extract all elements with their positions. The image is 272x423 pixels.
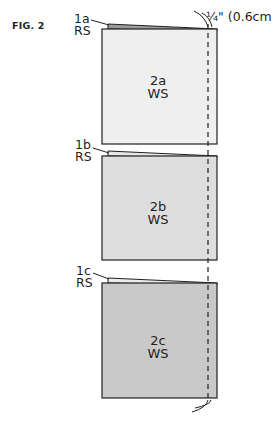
seam-allowance-label: ¼" (0.6cm) [206,9,272,24]
flap-side: RS [75,151,92,163]
square-side: WS [128,347,188,360]
square-label-2c: 2c WS [128,334,188,360]
measure-arc-bottom [192,400,208,412]
flap-label-1a: 1a RS [74,13,91,37]
pointer-1c [93,273,109,279]
flap-label-1c: 1c RS [76,265,93,289]
pointer-1b [93,148,109,153]
square-label-2a: 2a WS [128,74,188,100]
square-side: WS [128,87,188,100]
flap-label-1b: 1b RS [75,139,92,163]
square-label-2b: 2b WS [128,200,188,226]
flap-side: RS [74,25,91,37]
pointer-1a [91,20,109,25]
square-side: WS [128,213,188,226]
flap-side: RS [76,277,93,289]
